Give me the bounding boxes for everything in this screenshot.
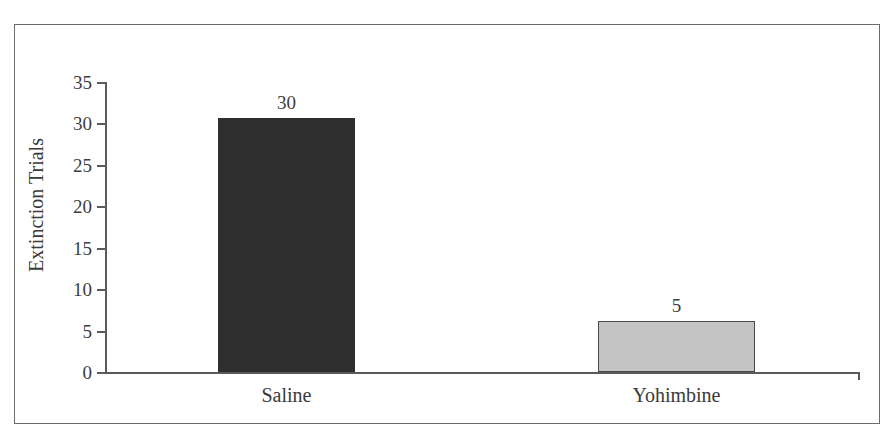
- y-axis-tick-25: [97, 165, 106, 167]
- y-tick-label-0: 0: [54, 363, 92, 382]
- bar-value-yohimbine: 5: [598, 296, 755, 315]
- y-tick-label-35-wrap: 35: [50, 73, 92, 92]
- y-axis-tick-5: [97, 331, 106, 333]
- y-tick-label-20: 20: [54, 197, 92, 216]
- bar-saline[interactable]: [218, 118, 355, 372]
- x-category-label-yohimbine: Yohimbine: [595, 385, 758, 405]
- y-tick-label-5: 5: [54, 322, 92, 341]
- y-axis-tick-15: [97, 248, 106, 250]
- y-tick-label-10: 10: [54, 280, 92, 299]
- x-category-label-saline: Saline: [215, 385, 358, 405]
- y-tick-label-5-wrap: 5: [50, 322, 92, 341]
- y-tick-label-10-wrap: 10: [50, 280, 92, 299]
- y-tick-label-0-wrap: 0: [50, 363, 92, 382]
- y-tick-label-25-wrap: 25: [50, 156, 92, 175]
- y-tick-label-35: 35: [54, 73, 92, 92]
- bar-yohimbine[interactable]: [598, 321, 755, 372]
- y-tick-label-30-wrap: 30: [50, 114, 92, 133]
- y-tick-label-30: 30: [54, 114, 92, 133]
- y-axis-tick-30: [97, 123, 106, 125]
- figure-container: 35 30 25 20 15 10 5 0 Extinction Trials: [0, 0, 894, 448]
- bar-value-saline: 30: [218, 93, 355, 112]
- plot-area: 35 30 25 20 15 10 5 0 Extinction Trials: [0, 0, 894, 448]
- y-tick-label-15-wrap: 15: [50, 239, 92, 258]
- y-axis-tick-35: [97, 82, 106, 84]
- y-tick-label-20-wrap: 20: [50, 197, 92, 216]
- y-axis-tick-10: [97, 289, 106, 291]
- y-axis-title: Extinction Trials: [26, 95, 46, 315]
- y-tick-label-15: 15: [54, 239, 92, 258]
- y-tick-label-25: 25: [54, 156, 92, 175]
- y-axis-tick-20: [97, 206, 106, 208]
- x-axis-line: [105, 372, 860, 374]
- x-axis-end-tick: [858, 372, 860, 380]
